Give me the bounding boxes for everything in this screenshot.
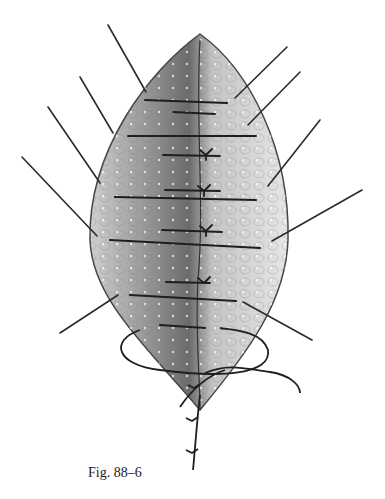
figure-caption: Fig. 88–6 [88,465,142,481]
suture-illustration [0,0,385,499]
wound-shape [90,34,288,410]
